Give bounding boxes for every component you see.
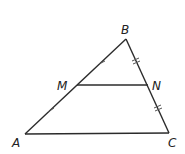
- label-m: M: [57, 79, 68, 93]
- label-n: N: [152, 79, 161, 93]
- label-b: B: [121, 23, 129, 37]
- label-c: C: [168, 136, 177, 150]
- segment-ca: [25, 133, 169, 134]
- segment-ab: [25, 39, 126, 134]
- diagram-svg: B M N A C: [0, 0, 185, 154]
- segment-bc: [126, 39, 169, 133]
- label-a: A: [11, 136, 20, 150]
- triangle-diagram: B M N A C: [0, 0, 185, 154]
